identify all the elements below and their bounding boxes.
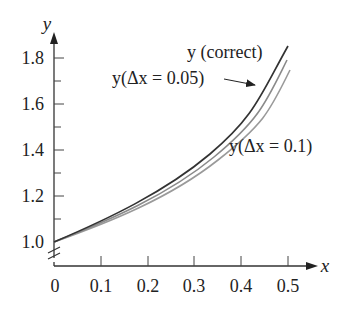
y-tick-label: 1.6 (22, 94, 45, 114)
x-tick-label: 0.5 (277, 276, 300, 296)
x-tick-label: 0.1 (90, 276, 113, 296)
x-tick-label: 0.4 (230, 276, 253, 296)
y-axis: y 1.8 1.6 1.4 1.2 1.0 (22, 13, 65, 266)
y-tick-label: 1.8 (22, 48, 45, 68)
series-dx-0-1 (54, 70, 290, 242)
x-axis: x 0 0.1 0.2 0.3 0.4 0.5 (51, 255, 330, 296)
annotation-dx-0-1: y(Δx = 0.1) (229, 136, 312, 157)
x-tick-label: 0.3 (183, 276, 206, 296)
x-axis-label: x (320, 255, 330, 276)
annotation-dx-0-05: y(Δx = 0.05) (112, 68, 204, 89)
chart: y 1.8 1.6 1.4 1.2 1.0 x 0 0.1 0.2 0.3 0.… (0, 0, 347, 318)
y-axis-label: y (41, 13, 52, 34)
y-tick-label: 1.0 (22, 232, 45, 252)
annotation-correct: y (correct) (187, 42, 262, 63)
y-tick-label: 1.4 (22, 140, 45, 160)
arrow-icon (224, 79, 255, 85)
y-tick-label: 1.2 (22, 186, 45, 206)
x-tick-label: 0 (51, 276, 60, 296)
annotations: y (correct) y(Δx = 0.05) y(Δx = 0.1) (112, 42, 312, 157)
x-tick-label: 0.2 (137, 276, 160, 296)
x-axis-arrow-icon (306, 262, 318, 270)
